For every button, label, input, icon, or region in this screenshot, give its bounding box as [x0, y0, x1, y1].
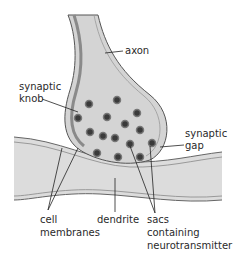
label-synaptic-knob-1: synaptic [19, 81, 61, 93]
label-sacs-2: containing [147, 227, 200, 239]
label-synaptic-gap-2: gap [185, 140, 204, 152]
label-cell-membranes-1: cell [40, 214, 57, 226]
label-synaptic-gap-1: synaptic [185, 128, 227, 140]
label-sacs-3: neurotransmitter [147, 240, 232, 252]
label-cell-membranes-2: membranes [40, 227, 100, 239]
label-dendrite: dendrite [97, 214, 139, 226]
label-sacs-1: sacs [147, 214, 169, 226]
label-axon: axon [125, 45, 149, 57]
label-synaptic-knob-2: knob [19, 93, 44, 105]
